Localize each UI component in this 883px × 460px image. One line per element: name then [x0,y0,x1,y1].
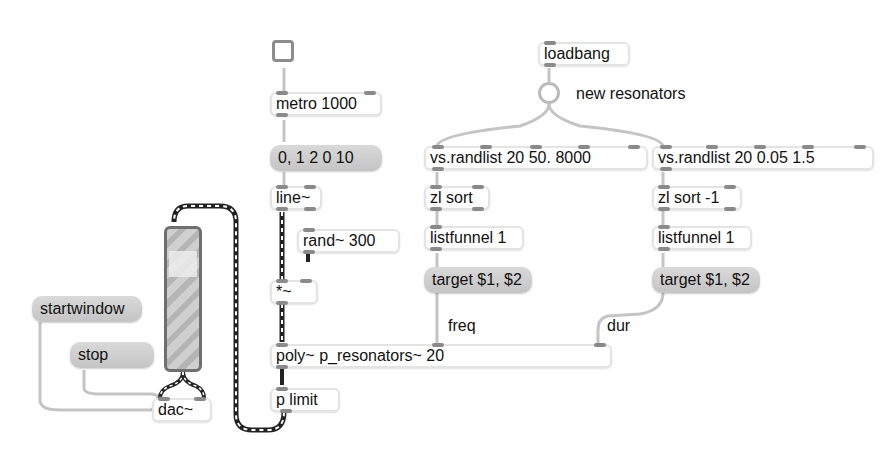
listfunnel-dur-object[interactable]: listfunnel 1 [652,226,752,250]
zl-sort-freq-label: zl sort [430,189,473,206]
zl-sort-freq-object[interactable]: zl sort [424,186,490,210]
line-message-label: 0, 1 2 0 10 [278,149,354,166]
multiply-label: *~ [276,283,292,300]
freq-comment: freq [448,316,476,336]
metro-label: metro 1000 [276,95,357,112]
multiply-object[interactable]: *~ [270,280,318,304]
stop-message[interactable]: stop [70,342,154,368]
plimit-object[interactable]: p limit [270,388,340,412]
poly-object[interactable]: poly~ p_resonators~ 20 [270,344,612,368]
randlist-dur-object[interactable]: vs.randlist 20 0.05 1.5 [652,146,874,170]
randlist-freq-object[interactable]: vs.randlist 20 50. 8000 [424,146,648,170]
target-dur-message[interactable]: target $1, $2 [652,267,760,293]
loadbang-label: loadbang [544,45,610,62]
new-resonators-comment: new resonators [576,84,685,104]
patcher-canvas[interactable]: metro 1000 0, 1 2 0 10 line~ rand~ 300 *… [0,0,883,460]
listfunnel-freq-label: listfunnel 1 [430,229,507,246]
listfunnel-freq-object[interactable]: listfunnel 1 [424,226,524,250]
line-object[interactable]: line~ [270,186,322,210]
dac-object[interactable]: dac~ [152,398,212,422]
target-freq-message[interactable]: target $1, $2 [424,267,532,293]
toggle[interactable] [272,40,294,62]
dac-label: dac~ [158,401,193,418]
randlist-dur-label: vs.randlist 20 0.05 1.5 [658,149,815,166]
rand-label: rand~ 300 [303,232,376,249]
zl-sort-dur-label: zl sort -1 [658,189,719,206]
stop-label: stop [78,346,108,363]
target-freq-label: target $1, $2 [432,271,522,288]
meter-highlight [169,251,197,277]
rand-object[interactable]: rand~ 300 [297,229,400,253]
startwindow-label: startwindow [40,300,124,317]
startwindow-message[interactable]: startwindow [32,296,142,322]
level-meter[interactable] [164,226,202,372]
line-message[interactable]: 0, 1 2 0 10 [270,145,382,171]
poly-label: poly~ p_resonators~ 20 [276,347,444,364]
bang-button[interactable] [538,82,560,104]
randlist-freq-label: vs.randlist 20 50. 8000 [430,149,591,166]
line-label: line~ [276,189,310,206]
zl-sort-dur-object[interactable]: zl sort -1 [652,186,742,210]
target-dur-label: target $1, $2 [660,271,750,288]
listfunnel-dur-label: listfunnel 1 [658,229,735,246]
loadbang-object[interactable]: loadbang [538,42,630,66]
metro-object[interactable]: metro 1000 [270,92,382,116]
plimit-label: p limit [276,391,318,408]
dur-comment: dur [607,316,630,336]
